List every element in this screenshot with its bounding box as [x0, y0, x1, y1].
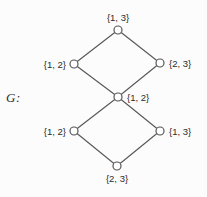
graph-edge-upper-left-middle	[74, 64, 118, 97]
graph-node-label-middle: {1, 2}	[127, 92, 149, 103]
graph-node-lower-right	[156, 127, 164, 135]
graph-edge-top-upper-left	[74, 30, 118, 64]
graph-node-label-top: {1, 3}	[107, 12, 129, 23]
graph-node-label-lower-right: {1, 3}	[169, 126, 191, 137]
graph-node-label-lower-left: {1, 2}	[44, 126, 66, 137]
graph-node-upper-right	[156, 59, 164, 67]
graph-node-top	[114, 26, 122, 34]
graph-node-label-upper-left: {1, 2}	[44, 59, 66, 70]
graph-canvas: {1, 3}{1, 2}{2, 3}{1, 2}{1, 2}{1, 3}{2, …	[0, 0, 207, 197]
graph-node-label-bottom: {2, 3}	[106, 173, 128, 184]
graph-node-lower-left	[70, 127, 78, 135]
graph-figure: G: {1, 3}{1, 2}{2, 3}{1, 2}{1, 2}{1, 3}{…	[0, 0, 207, 197]
graph-edge-middle-lower-left	[74, 97, 118, 131]
graph-node-bottom	[113, 162, 121, 170]
graph-node-upper-left	[70, 60, 78, 68]
graph-edge-lower-right-bottom	[117, 131, 160, 166]
graph-edge-lower-left-bottom	[74, 131, 117, 166]
graph-node-middle	[114, 93, 122, 101]
graph-edge-top-upper-right	[118, 30, 160, 63]
graph-node-label-upper-right: {2, 3}	[169, 58, 191, 69]
